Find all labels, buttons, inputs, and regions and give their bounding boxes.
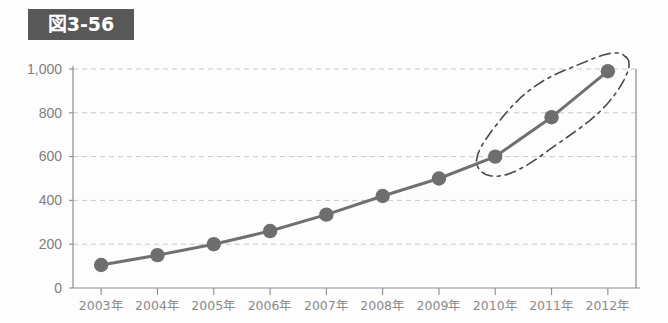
x-axis-labels: 2003年2004年2005年2006年2007年2008年2009年2010年…	[79, 298, 631, 313]
gridlines	[73, 69, 636, 244]
series-line-1	[101, 71, 608, 265]
y-axis-tick-label: 0	[54, 280, 62, 296]
series-markers	[94, 64, 615, 272]
x-axis-tick-label: 2006年	[248, 298, 293, 313]
data-point-marker	[150, 248, 164, 262]
x-axis-tick-label: 2004年	[135, 298, 180, 313]
data-point-marker	[488, 149, 502, 163]
chart-canvas: 02004006008001,000 2003年2004年2005年2006年2…	[0, 0, 668, 323]
data-point-marker	[263, 224, 277, 238]
y-axis-tick-label: 1,000	[27, 61, 62, 77]
line-chart: 02004006008001,000 2003年2004年2005年2006年2…	[0, 0, 668, 323]
y-axis-tick-label: 600	[39, 148, 63, 164]
x-axis-tick-label: 2007年	[304, 298, 349, 313]
y-axis-tick-label: 200	[39, 236, 63, 252]
x-axis-tick-label: 2012年	[585, 298, 630, 313]
data-point-marker	[601, 64, 615, 78]
x-axis-tick-label: 2010年	[473, 298, 518, 313]
x-axis-ticks	[101, 288, 608, 295]
x-axis-tick-label: 2008年	[360, 298, 405, 313]
data-point-marker	[94, 258, 108, 272]
data-point-marker	[319, 207, 333, 221]
x-axis-tick-label: 2003年	[79, 298, 124, 313]
data-point-marker	[544, 110, 558, 124]
x-axis-tick-label: 2011年	[529, 298, 574, 313]
data-point-marker	[432, 171, 446, 185]
x-axis-tick-label: 2005年	[191, 298, 236, 313]
data-point-marker	[375, 189, 389, 203]
data-point-marker	[207, 237, 221, 251]
y-axis-tick-label: 400	[39, 192, 63, 208]
y-axis-tick-label: 800	[39, 105, 63, 121]
x-axis-tick-label: 2009年	[417, 298, 462, 313]
y-axis-ticks: 02004006008001,000	[27, 61, 73, 296]
